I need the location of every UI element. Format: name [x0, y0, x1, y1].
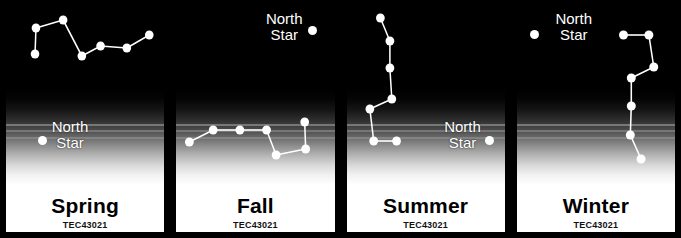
- north-star-label-line2: Star: [433, 135, 493, 151]
- constellation-star: [122, 43, 131, 52]
- panel-caption: FallTEC43021: [176, 184, 334, 232]
- constellation-star: [627, 73, 636, 82]
- constellation-star: [387, 94, 396, 103]
- constellation-link: [63, 20, 82, 56]
- season-panel-spring[interactable]: NorthStarSpringTEC43021: [3, 3, 167, 235]
- panel-code-label: TEC43021: [574, 220, 619, 231]
- north-star-label: NorthStar: [433, 119, 493, 151]
- constellation-star: [636, 154, 645, 163]
- constellation-svg: [347, 6, 505, 185]
- north-star-label-line1: North: [544, 11, 604, 27]
- constellation-field: [6, 6, 164, 185]
- constellation-star: [385, 63, 394, 72]
- season-panel-summer[interactable]: NorthStarSummerTEC43021: [344, 3, 508, 235]
- constellation-star: [385, 36, 394, 45]
- season-panel-fall[interactable]: NorthStarFallTEC43021: [173, 3, 337, 235]
- north-star-label-line2: Star: [254, 27, 314, 43]
- constellation-star: [375, 13, 384, 22]
- constellation-star: [627, 101, 636, 110]
- panel-code-label: TEC43021: [403, 220, 448, 231]
- constellation-star: [644, 30, 653, 39]
- season-title: Fall: [237, 195, 274, 217]
- constellation-link: [276, 149, 306, 155]
- constellation-star: [209, 125, 218, 134]
- constellation-star: [649, 62, 658, 71]
- north-star-label-line1: North: [433, 119, 493, 135]
- panel-code-label: TEC43021: [63, 220, 108, 231]
- panel-code-label: TEC43021: [233, 220, 278, 231]
- constellation-star: [369, 136, 378, 145]
- constellation-star: [145, 30, 154, 39]
- north-star-dot: [530, 30, 539, 39]
- constellation-link: [649, 35, 654, 67]
- constellation-star: [78, 51, 87, 60]
- constellation-star: [185, 137, 194, 146]
- constellation-link: [369, 109, 373, 141]
- panels-container: NorthStarSpringTEC43021NorthStarFallTEC4…: [0, 0, 681, 238]
- season-title: Winter: [563, 195, 629, 217]
- constellation-star: [365, 104, 374, 113]
- constellation-star: [301, 117, 310, 126]
- constellation-star: [96, 41, 105, 50]
- season-title: Spring: [51, 195, 119, 217]
- constellation-star: [272, 150, 281, 159]
- panel-caption: SpringTEC43021: [6, 184, 164, 232]
- north-star-label: NorthStar: [254, 11, 314, 43]
- constellation-star: [262, 125, 271, 134]
- north-star-label: NorthStar: [544, 11, 604, 43]
- season-panel-winter[interactable]: NorthStarWinterTEC43021: [514, 3, 678, 235]
- north-star-label-line2: Star: [544, 27, 604, 43]
- north-star-label-line1: North: [40, 119, 100, 135]
- panel-caption: WinterTEC43021: [517, 184, 675, 232]
- constellation-star: [302, 144, 311, 153]
- constellation-star: [392, 136, 401, 145]
- constellation-star: [626, 130, 635, 139]
- panel-caption: SummerTEC43021: [347, 184, 505, 232]
- seasonal-star-chart-poster: NorthStarSpringTEC43021NorthStarFallTEC4…: [0, 0, 681, 238]
- constellation-svg: [6, 6, 164, 185]
- north-star-label: NorthStar: [40, 119, 100, 151]
- constellation-star: [236, 125, 245, 134]
- constellation-star: [59, 15, 68, 24]
- season-title: Summer: [383, 195, 468, 217]
- north-star-label-line1: North: [254, 11, 314, 27]
- constellation-field: [347, 6, 505, 185]
- constellation-star: [32, 23, 41, 32]
- constellation-star: [619, 30, 628, 39]
- constellation-link: [389, 68, 391, 99]
- north-star-label-line2: Star: [40, 135, 100, 151]
- constellation-star: [31, 49, 40, 58]
